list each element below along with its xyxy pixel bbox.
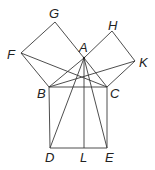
label-K: K xyxy=(139,55,149,70)
segment-HK xyxy=(112,31,135,61)
label-B: B xyxy=(37,86,46,101)
vertex-A-dot xyxy=(83,57,85,59)
diagram-labels: A B C D E L F G H K xyxy=(7,6,149,165)
segment-FG xyxy=(21,22,55,53)
segment-AH xyxy=(84,31,112,58)
label-F: F xyxy=(7,47,16,62)
label-L: L xyxy=(80,150,87,165)
segment-FC xyxy=(21,53,107,87)
segment-BK xyxy=(49,61,135,87)
label-G: G xyxy=(49,6,59,21)
diagram-segments xyxy=(21,22,135,148)
label-A: A xyxy=(78,40,88,55)
segment-BD xyxy=(49,87,50,148)
label-E: E xyxy=(105,150,114,165)
segment-AE xyxy=(84,58,107,148)
label-C: C xyxy=(110,86,120,101)
label-D: D xyxy=(45,150,54,165)
label-H: H xyxy=(108,18,118,33)
pythagorean-proof-diagram: A B C D E L F G H K xyxy=(0,0,155,170)
